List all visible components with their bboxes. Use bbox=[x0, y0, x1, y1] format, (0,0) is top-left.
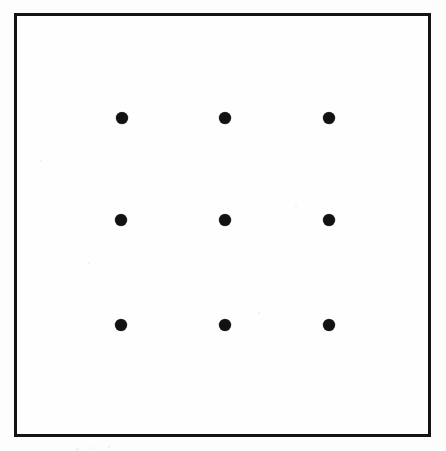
scan-speck bbox=[40, 160, 42, 162]
scan-speck bbox=[258, 312, 260, 314]
dot-r3c2 bbox=[219, 319, 231, 331]
scan-speck bbox=[108, 446, 110, 448]
dot-r2c1 bbox=[115, 214, 127, 226]
scan-speck bbox=[88, 262, 90, 264]
figure-root bbox=[0, 0, 446, 451]
dot-r2c3 bbox=[323, 214, 335, 226]
dot-r2c2 bbox=[219, 214, 231, 226]
dot-r3c1 bbox=[115, 319, 127, 331]
dot-r1c3 bbox=[323, 112, 335, 124]
dot-r1c2 bbox=[219, 112, 231, 124]
dot-r1c1 bbox=[116, 112, 128, 124]
scan-speck bbox=[92, 447, 94, 449]
dot-r3c3 bbox=[323, 319, 335, 331]
scan-speck bbox=[295, 205, 297, 207]
